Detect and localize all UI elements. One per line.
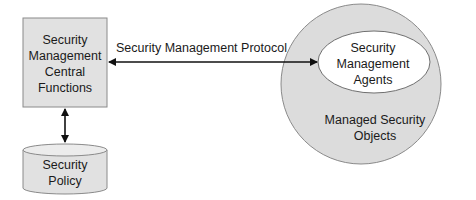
central-box-line-1: Security — [42, 33, 88, 47]
security-management-agents-ellipse: Security Management Agents — [318, 31, 430, 93]
agents-line-2: Management — [337, 57, 410, 71]
agents-line-3: Agents — [354, 73, 393, 87]
central-box-line-2: Management — [29, 49, 102, 63]
policy-line-2: Policy — [48, 174, 82, 188]
agents-line-1: Security — [350, 41, 396, 55]
managed-objects-line-2: Objects — [354, 129, 396, 143]
central-functions-box: Security Management Central Functions — [23, 18, 107, 107]
security-policy-cylinder: Security Policy — [23, 144, 107, 194]
central-box-line-3: Central — [45, 65, 85, 79]
policy-line-1: Security — [42, 158, 88, 172]
managed-objects-line-1: Managed Security — [325, 113, 427, 127]
central-box-line-4: Functions — [38, 81, 92, 95]
protocol-label: Security Management Protocol — [116, 41, 287, 55]
security-management-diagram: Security Management Central Functions Ma… — [0, 0, 476, 200]
